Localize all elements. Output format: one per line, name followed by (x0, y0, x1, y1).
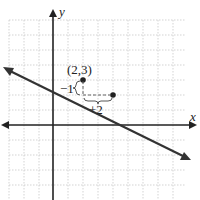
rise-brace (73, 81, 80, 95)
y-axis-up-arrow-icon (49, 9, 57, 17)
point-4-2 (110, 92, 116, 98)
x-axis-left-arrow-icon (1, 121, 9, 129)
coordinate-plane: y x (2,3) −1 +2 (0, 0, 200, 200)
run-label: +2 (89, 102, 103, 117)
x-axis-label: x (189, 109, 196, 124)
point-label: (2,3) (67, 62, 92, 77)
rise-label: −1 (60, 81, 74, 96)
y-axis-label: y (57, 4, 65, 19)
